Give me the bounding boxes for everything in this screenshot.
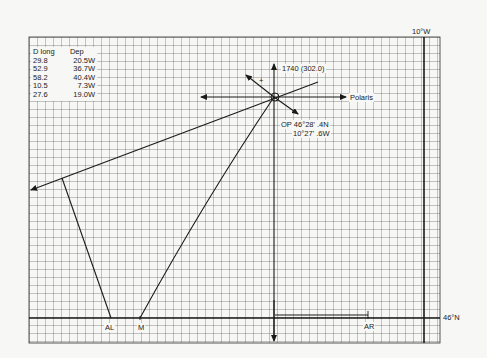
parallel-label: 46°N [443, 313, 460, 322]
table-row: 27.619.0W [33, 91, 97, 100]
meridian-label: 10°W [412, 27, 430, 36]
al-label: AL [104, 323, 115, 332]
ar-label: AR [363, 322, 375, 331]
polaris-label: Polaris [349, 93, 374, 102]
op-lat-label: OP 46°28' .4N [280, 120, 330, 129]
plus-mark: + [259, 76, 263, 85]
m-label: M [137, 323, 145, 332]
dlong-dep-table: D long Dep 29.820.5W 52.936.7W 58.240.4W… [31, 47, 97, 101]
azimuth-label: 1740 (302.0) [281, 64, 326, 73]
op-lon-label: 10°27' .6W [292, 129, 331, 138]
